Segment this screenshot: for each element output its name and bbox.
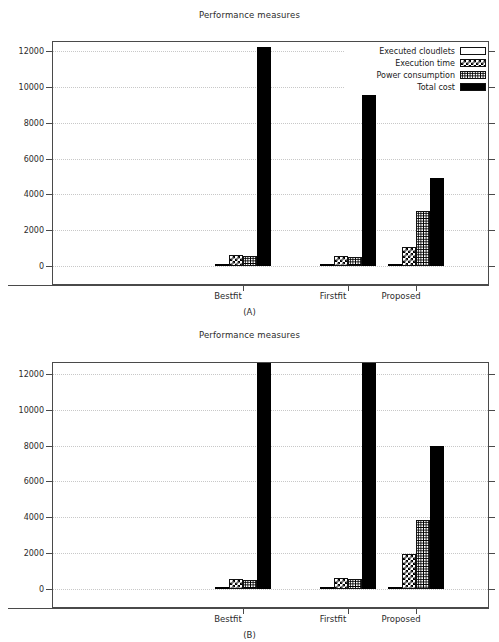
x-tick-label-proposed-a: Proposed (381, 291, 420, 301)
panel-caption-b: (B) (0, 630, 499, 640)
y-axis-tick-label: 12000 (19, 46, 44, 55)
bar (320, 587, 334, 589)
figure: Performance measures 0200040006000800010… (0, 0, 499, 642)
y-axis-tick (46, 481, 53, 482)
bar (334, 256, 348, 266)
bar (334, 578, 348, 589)
y-axis-tick-right (488, 481, 495, 482)
y-axis-tick-right (488, 123, 495, 124)
bar (348, 257, 362, 266)
bar (388, 264, 402, 266)
bar (430, 178, 444, 266)
bar (229, 579, 243, 589)
legend-item-total-cost-a: Total cost (347, 81, 486, 93)
bar (257, 363, 271, 589)
y-axis-tick (46, 553, 53, 554)
y-axis-tick-label: 4000 (24, 513, 44, 522)
y-axis-tick-label: 6000 (24, 477, 44, 486)
y-axis-tick-label: 10000 (19, 82, 44, 91)
bar (320, 264, 334, 266)
y-axis-tick (46, 87, 53, 88)
y-axis-tick (46, 517, 53, 518)
bar (416, 211, 430, 266)
y-axis-tick (46, 266, 53, 267)
y-axis-tick (46, 123, 53, 124)
legend-item-power-consumption-a: Power consumption (347, 69, 486, 81)
plot-inner-b (53, 363, 488, 607)
chart-title-b: Performance measures (0, 330, 499, 340)
bar (348, 579, 362, 589)
y-axis-tick-label: 2000 (24, 226, 44, 235)
y-axis-tick-right (488, 51, 495, 52)
x-tick-label-bestfit-b: Bestfit (214, 614, 242, 624)
bar (215, 264, 229, 266)
y-axis-tick (46, 410, 53, 411)
legend-a: Executed cloudlets Execution time Power … (344, 43, 488, 95)
y-axis-tick-label: 2000 (24, 549, 44, 558)
y-axis-tick (46, 374, 53, 375)
x-tick-label-firstfit-b: Firstfit (320, 614, 347, 624)
x-tick-label-bestfit-a: Bestfit (214, 291, 242, 301)
legend-swatch-total-cost-a (460, 83, 486, 91)
y-axis-tick-right (488, 410, 495, 411)
y-axis-tick-right (488, 87, 495, 88)
y-axis-tick (46, 159, 53, 160)
legend-label-power-consumption-a: Power consumption (376, 71, 455, 80)
bar (362, 363, 376, 589)
y-axis-tick-label: 12000 (19, 369, 44, 378)
bar (388, 587, 402, 589)
y-axis-tick-right (488, 517, 495, 518)
y-axis-tick (46, 446, 53, 447)
y-axis-tick-label: 8000 (24, 441, 44, 450)
y-axis-tick-right (488, 230, 495, 231)
chart-title-a: Performance measures (0, 10, 499, 20)
bar (416, 520, 430, 589)
bar (257, 47, 271, 267)
y-axis-tick-label: 10000 (19, 405, 44, 414)
plot-area-b: 020004000600080001000012000 (52, 362, 489, 608)
panel-caption-a: (A) (0, 307, 499, 317)
legend-swatch-power-consumption-a (460, 71, 486, 79)
y-axis-tick-right (488, 446, 495, 447)
y-axis-tick-right (488, 266, 495, 267)
y-axis-tick-label: 8000 (24, 118, 44, 127)
y-axis-tick-label: 4000 (24, 190, 44, 199)
bar (402, 554, 416, 589)
bar (215, 587, 229, 589)
bar (229, 255, 243, 266)
chart-panel-b: Performance measures 0200040006000800010… (0, 320, 499, 642)
bar (243, 580, 257, 589)
y-axis-tick (46, 589, 53, 590)
y-axis-tick-right (488, 374, 495, 375)
y-axis-tick-label: 0 (39, 585, 44, 594)
legend-label-execution-time-a: Execution time (395, 59, 455, 68)
x-axis-line-b (8, 608, 489, 609)
gridline (53, 266, 488, 267)
legend-item-execution-time-a: Execution time (347, 57, 486, 69)
gridline (53, 589, 488, 590)
x-axis-line-a (8, 285, 489, 286)
y-axis-tick-right (488, 159, 495, 160)
bar (430, 446, 444, 590)
y-axis-tick (46, 51, 53, 52)
y-axis-tick-label: 6000 (24, 154, 44, 163)
y-axis-tick (46, 194, 53, 195)
x-tick-label-proposed-b: Proposed (381, 614, 420, 624)
legend-label-total-cost-a: Total cost (417, 83, 455, 92)
legend-item-executed-cloudlets-a: Executed cloudlets (347, 45, 486, 57)
y-axis-tick-right (488, 194, 495, 195)
bar (402, 247, 416, 266)
y-axis-tick-label: 0 (39, 262, 44, 271)
y-axis-tick-right (488, 589, 495, 590)
x-tick-label-firstfit-a: Firstfit (320, 291, 347, 301)
legend-label-executed-cloudlets-a: Executed cloudlets (379, 47, 455, 56)
legend-swatch-executed-cloudlets-a (460, 47, 486, 55)
legend-swatch-execution-time-a (460, 59, 486, 67)
y-axis-tick (46, 230, 53, 231)
bar (243, 256, 257, 266)
y-axis-tick-right (488, 553, 495, 554)
chart-panel-a: Performance measures 0200040006000800010… (0, 0, 499, 320)
